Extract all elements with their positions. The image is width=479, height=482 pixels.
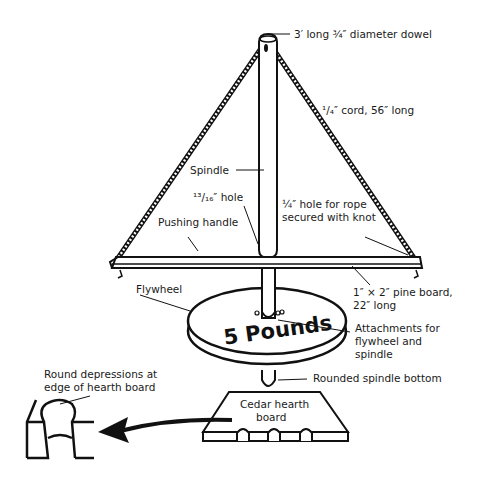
rope-hole-label-1: ¼″ hole for rope [282,198,367,211]
spindle-upper [259,34,277,258]
spindle-bottom [262,370,275,386]
pine-board-label-2: 22″ long [353,299,396,312]
flywheel-label: Flywheel [136,283,182,296]
rounded-bottom-label: Rounded spindle bottom [313,372,442,385]
spindle-label: Spindle [190,164,229,177]
rope-hole-label-2: secured with knot [282,211,376,224]
pushing-handle-label: Pushing handle [158,216,238,229]
hearth-label-1: Cedar hearth [240,398,309,411]
attachments-label-2: flywheel and [355,335,422,348]
depressions-label-1: Round depressions at [44,368,157,381]
attachments-label-1: Attachments for [355,322,440,335]
depressions-label-2: edge of hearth board [44,381,155,394]
depression-detail [27,400,94,458]
hearth-label-2: board [256,411,286,424]
dowel-label: 3′ long ¾″ diameter dowel [294,28,432,41]
cord-right [270,44,414,258]
cord-label: ¹/₄″ cord, 56″ long [322,104,414,117]
hole-13-16-label: ¹³/₁₆″ hole [193,191,243,204]
attachments-label-3: spindle [355,348,393,361]
pine-board-label-1: 1″ × 2″ pine board, [353,286,453,299]
